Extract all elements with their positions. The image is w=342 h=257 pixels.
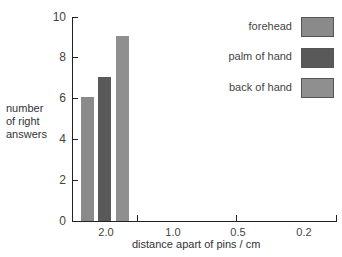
y-tick-label: 2: [52, 173, 66, 187]
y-tick-label: 0: [52, 214, 66, 228]
bar-forehead-2.0: [81, 97, 94, 221]
bar-back-of-hand-2.0: [116, 36, 129, 221]
y-tick-label: 4: [52, 132, 66, 146]
bar-palm-of-hand-2.0: [98, 77, 111, 221]
legend-swatch-palm-of-hand: [301, 48, 334, 68]
legend-swatch-forehead: [301, 17, 334, 37]
y-axis-label-line: of right: [6, 115, 47, 128]
y-tick-label: 6: [52, 91, 66, 105]
legend-swatch-back-of-hand: [301, 78, 334, 98]
y-axis: [72, 17, 73, 222]
y-axis-label-line: number: [6, 102, 47, 115]
legend-label-forehead: forehead: [182, 20, 292, 32]
x-tick-label: 2.0: [86, 226, 126, 238]
chart: number of right answers 10 8 6 4 2 0 2.0…: [0, 0, 342, 257]
x-axis-label: distance apart of pins / cm: [132, 238, 260, 250]
y-axis-label: number of right answers: [6, 102, 47, 141]
y-axis-label-line: answers: [6, 128, 47, 141]
legend-label-back-of-hand: back of hand: [182, 81, 292, 93]
x-axis: [72, 221, 337, 222]
x-tick: [336, 215, 337, 221]
x-tick-label: 1.0: [153, 226, 193, 238]
legend: forehead palm of hand back of hand: [180, 14, 340, 104]
legend-label-palm-of-hand: palm of hand: [182, 50, 292, 62]
x-tick-label: 0.5: [218, 226, 258, 238]
x-tick: [236, 215, 237, 221]
x-tick-label: 0.2: [284, 226, 324, 238]
y-tick-label: 8: [52, 50, 66, 64]
y-tick-label: 10: [52, 10, 66, 24]
x-tick: [137, 215, 138, 221]
